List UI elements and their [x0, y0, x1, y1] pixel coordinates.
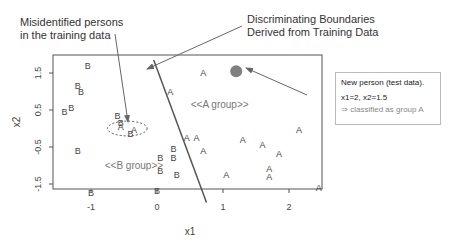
region-label: <<B group>>	[105, 160, 164, 171]
point-a: A	[200, 146, 206, 156]
point-b: B	[170, 153, 176, 163]
misidentified-annotation: Misidentified persons in the training da…	[20, 16, 123, 42]
point-a: A	[240, 135, 246, 145]
point-b: B	[88, 188, 94, 198]
x-axis: -1012	[87, 189, 292, 212]
y-axis-label: x2	[11, 116, 22, 127]
misidentified-line2: in the training data	[20, 29, 123, 42]
x-axis-label: x1	[185, 226, 196, 237]
decision-boundary-line	[154, 60, 207, 202]
infobox-values: x1=2, x2=1.5	[341, 92, 440, 104]
point-a: A	[260, 140, 266, 150]
point-a: A	[200, 68, 206, 78]
point-b: B	[85, 61, 91, 71]
boundary-annotation: Discriminating Boundaries Derived from T…	[247, 13, 378, 39]
boundary-line2: Derived from Training Data	[247, 26, 378, 39]
point-a: A	[167, 87, 173, 97]
misidentified-arrow	[115, 34, 128, 122]
point-a: A	[316, 183, 322, 193]
x-tick-label: 1	[220, 202, 225, 212]
point-b: B	[174, 170, 180, 180]
point-b: B	[62, 107, 68, 117]
point-b: B	[78, 87, 84, 97]
infobox-title: New person (test data).	[341, 77, 440, 89]
data-points: BBBBBBBBBBBBBBBBAAAAAAAAAAAAAAA	[62, 61, 322, 199]
new-person-point	[230, 65, 242, 77]
y-tick-label: 1.5	[33, 67, 43, 80]
misidentified-line1: Misidentified persons	[20, 16, 123, 29]
point-a: A	[118, 122, 124, 132]
point-a: A	[276, 149, 282, 159]
y-tick-label: -0.5	[33, 139, 43, 155]
boundary-line1: Discriminating Boundaries	[247, 13, 378, 26]
point-a: A	[194, 133, 200, 143]
point-a: A	[131, 125, 137, 135]
x-tick-label: 2	[286, 202, 291, 212]
point-b: B	[170, 144, 176, 154]
infobox-result: ⇒ classified as group A	[341, 104, 440, 116]
new-person-arrow	[246, 68, 307, 95]
plot-frame	[53, 55, 322, 189]
region-label: <<A group>>	[191, 99, 249, 110]
point-a: A	[266, 172, 272, 182]
point-b: B	[157, 153, 163, 163]
test-data-infobox: New person (test data). x1=2, x2=1.5 ⇒ c…	[335, 72, 441, 125]
x-tick-label: 0	[154, 202, 159, 212]
point-b: B	[154, 186, 160, 196]
x-tick-label: -1	[87, 202, 95, 212]
y-tick-label: -1.5	[33, 176, 43, 192]
y-tick-label: 0.5	[33, 104, 43, 117]
point-a: A	[296, 125, 302, 135]
point-a: A	[223, 170, 229, 180]
point-b: B	[157, 166, 163, 176]
y-axis: 1.50.5-0.5-1.5	[33, 67, 53, 192]
point-b: B	[75, 146, 81, 156]
boundary-arrow	[147, 26, 242, 69]
point-b: B	[68, 103, 74, 113]
